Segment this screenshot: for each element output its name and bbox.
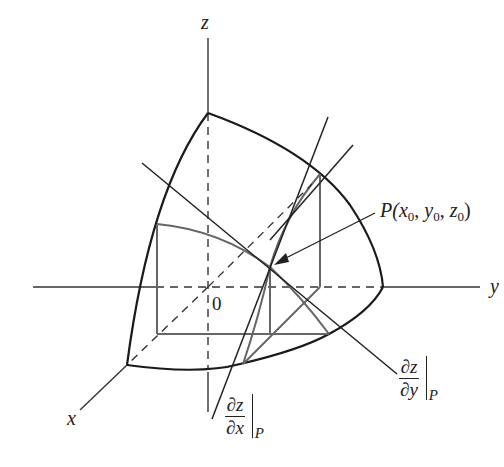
- evaluation-bar: [426, 356, 427, 400]
- arrowhead-icon: [274, 253, 289, 265]
- tangent-line-y: [142, 163, 397, 374]
- z-axis-label: z: [201, 12, 209, 32]
- partial-derivatives-diagram: z y x 0 P(x0, y0, z0) ∂z ∂y P ∂z ∂x P: [0, 0, 504, 467]
- point-p-label: P(x0, y0, z0): [380, 200, 471, 223]
- x-axis-hidden: [127, 287, 208, 365]
- origin-label: 0: [212, 293, 222, 315]
- slice-curve-x: [157, 224, 329, 334]
- tangent-lines: [142, 117, 397, 419]
- x-axis: [80, 365, 127, 410]
- partial-z-partial-y-label: ∂z ∂y P: [398, 356, 438, 400]
- x-axis-label: x: [67, 408, 76, 428]
- partial-z-partial-x-label: ∂z ∂x P: [224, 394, 264, 438]
- slice-curve-y: [243, 174, 320, 364]
- surface-edge-xz: [127, 113, 208, 365]
- evaluation-bar: [252, 394, 253, 438]
- y-axis-label: y: [490, 276, 499, 296]
